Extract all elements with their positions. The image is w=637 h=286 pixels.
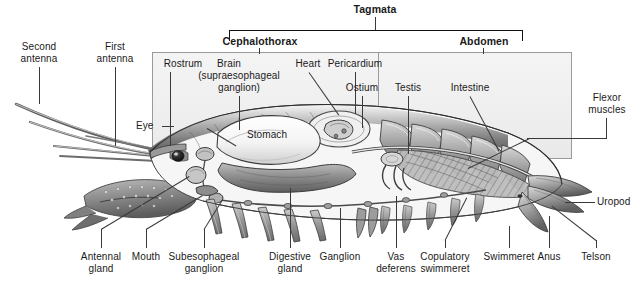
- testis-leader: [408, 96, 409, 154]
- vas-deferens-art: [383, 165, 411, 190]
- telson-leader-v: [596, 240, 597, 248]
- label-pericardium: Pericardium: [320, 58, 390, 70]
- label-stomach: Stomach: [232, 129, 302, 141]
- label-first-antenna-line1: First: [80, 41, 150, 53]
- digestive-gland-art: [218, 163, 356, 192]
- copulatory-leader-diag: [445, 198, 468, 241]
- copulatory-swimmeret-art: [357, 207, 379, 238]
- label-digestive-gland-line2: gland: [259, 263, 321, 275]
- label-testis: Testis: [388, 82, 428, 94]
- label-second-antenna-line2: antenna: [4, 53, 74, 65]
- label-antennal-gland-line1: Antennal: [70, 251, 132, 263]
- second-antenna-leader: [39, 67, 40, 104]
- label-copulatory-line2: swimmeret: [412, 263, 478, 275]
- label-ostium: Ostium: [340, 82, 384, 94]
- antennal-gland-leader-v: [101, 229, 102, 248]
- label-subesophageal-line1: Subesophageal: [162, 251, 246, 263]
- uropod-art: [528, 176, 592, 197]
- tail-fan-art: [517, 176, 592, 232]
- eye-leader: [162, 126, 174, 127]
- mouth-art: [196, 186, 218, 196]
- antennal-gland-leader-diag: [101, 176, 190, 230]
- label-telson: Telson: [574, 251, 618, 263]
- flexor-leader-v: [606, 118, 607, 138]
- subesophageal-leader-v: [204, 229, 205, 248]
- label-antennal-gland-line2: gland: [70, 263, 132, 275]
- anus-leader: [549, 216, 550, 248]
- abdomen-leader: [483, 48, 484, 54]
- label-flexor-muscles-line2: muscles: [580, 104, 634, 116]
- cephalothorax-leader: [259, 48, 260, 54]
- label-digestive-gland-line1: Digestive: [259, 251, 321, 263]
- ganglion-leader: [340, 208, 341, 248]
- label-brain-line1: Brain: [199, 58, 259, 70]
- label-brain-line3: ganglion): [199, 82, 279, 94]
- brain-leader: [239, 96, 240, 130]
- walking-legs-art: [206, 199, 326, 242]
- label-copulatory-line1: Copulatory: [412, 251, 478, 263]
- uropod-leader: [565, 202, 595, 203]
- swimmeret-leader: [509, 226, 510, 248]
- cheliped-art: [64, 168, 276, 230]
- tagmata-stem: [375, 17, 376, 30]
- label-flexor-muscles-line1: Flexor: [580, 92, 634, 104]
- label-brain-line2: (supraesophageal: [188, 70, 290, 82]
- region-label-cephalothorax: Cephalothorax: [200, 36, 320, 48]
- nerve-cord-art: [220, 190, 486, 209]
- vas-deferens-leader: [396, 196, 397, 248]
- tagmata-title: Tagmata: [335, 4, 415, 16]
- first-antenna-leader: [115, 67, 116, 146]
- label-uropod: Uropod: [597, 196, 637, 208]
- label-intestine: Intestine: [442, 82, 498, 94]
- label-eye: Eye: [136, 120, 162, 132]
- region-label-abdomen: Abdomen: [424, 36, 544, 48]
- subesophageal-leader-diag: [204, 200, 223, 230]
- telson-leader-diag: [552, 206, 597, 241]
- flexor-leader-h: [527, 138, 607, 139]
- label-mouth: Mouth: [126, 251, 166, 263]
- label-second-antenna-line1: Second: [4, 41, 74, 53]
- label-ganglion: Ganglion: [314, 251, 366, 263]
- copulatory-leader-v: [445, 240, 446, 248]
- figure-canvas: Tagmata Cephalothorax Abdomen Second ant…: [0, 0, 637, 286]
- label-subesophageal-line2: ganglion: [162, 263, 246, 275]
- ostium-leader: [362, 96, 363, 128]
- digestive-gland-leader: [290, 188, 291, 248]
- anus-art: [517, 194, 522, 198]
- label-first-antenna-line2: antenna: [80, 53, 150, 65]
- mouth-leader-v: [146, 229, 147, 248]
- rostrum-leader: [170, 72, 171, 146]
- telson-art: [518, 192, 548, 232]
- mouth-leader-diag: [146, 195, 203, 230]
- label-anus: Anus: [529, 251, 569, 263]
